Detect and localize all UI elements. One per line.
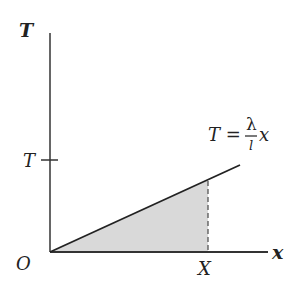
x-axis-label: x xyxy=(271,241,284,263)
tension-extension-diagram: T x O T X T = λ l x xyxy=(0,0,292,291)
equation-numerator: λ xyxy=(246,114,257,134)
y-axis-label: T xyxy=(19,19,35,41)
origin-label: O xyxy=(16,253,31,274)
y-tick-label: T xyxy=(23,150,37,171)
equation-variable: x xyxy=(259,124,269,145)
equation-denominator: l xyxy=(249,138,253,153)
equation-lhs: T = xyxy=(208,124,241,145)
x-marker-label: X xyxy=(196,258,212,279)
line-equation: T = λ l x xyxy=(208,114,269,153)
